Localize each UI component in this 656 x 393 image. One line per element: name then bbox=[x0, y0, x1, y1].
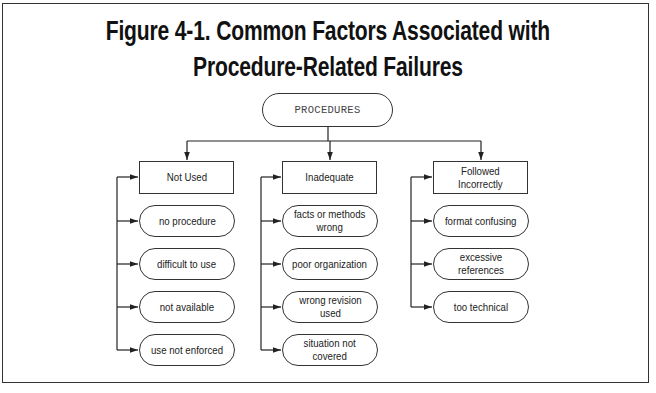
factor-label: facts or methods wrong bbox=[294, 208, 366, 234]
factor-too-technical: too technical bbox=[433, 291, 529, 323]
factor-label: wrong revision used bbox=[299, 294, 361, 320]
category-followed-incorrectly: Followed Incorrectly bbox=[433, 161, 528, 194]
factor-no-procedure: no procedure bbox=[139, 205, 235, 237]
factor-excessive-references: excessive references bbox=[433, 248, 529, 280]
factor-label: no procedure bbox=[158, 215, 215, 228]
factor-label: format confusing bbox=[445, 215, 517, 228]
root-node-label: PROCEDURES bbox=[294, 104, 360, 116]
factor-label: not available bbox=[160, 301, 214, 314]
factor-label: use not enforced bbox=[151, 344, 223, 357]
category-not-used: Not Used bbox=[139, 161, 234, 194]
category-label: Followed Incorrectly bbox=[458, 165, 503, 191]
factor-facts-or-methods-wrong: facts or methods wrong bbox=[282, 205, 378, 237]
factor-poor-organization: poor organization bbox=[282, 248, 378, 280]
factor-difficult-to-use: difficult to use bbox=[139, 248, 235, 280]
factor-use-not-enforced: use not enforced bbox=[139, 334, 235, 366]
factor-wrong-revision-used: wrong revision used bbox=[282, 291, 378, 323]
factor-label: too technical bbox=[454, 301, 508, 314]
root-node-procedures: PROCEDURES bbox=[262, 93, 393, 127]
factor-situation-not-covered: situation not covered bbox=[282, 334, 378, 366]
factor-not-available: not available bbox=[139, 291, 235, 323]
category-label: Inadequate bbox=[305, 171, 353, 184]
factor-label: poor organization bbox=[293, 258, 368, 271]
category-inadequate: Inadequate bbox=[282, 161, 377, 194]
category-label: Not Used bbox=[166, 171, 206, 184]
factor-format-confusing: format confusing bbox=[433, 205, 529, 237]
factor-label: difficult to use bbox=[157, 258, 216, 271]
factor-label: excessive references bbox=[458, 251, 504, 277]
factor-label: situation not covered bbox=[304, 337, 356, 363]
